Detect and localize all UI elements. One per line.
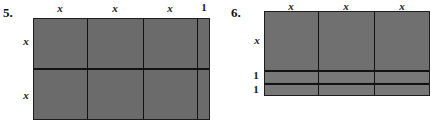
problem-5-horizontal-divider-1 [34, 68, 209, 70]
problem-6-left-label-2: 1 [250, 70, 262, 81]
problem-5-top-label-4: 1 [196, 2, 212, 13]
problem-6-left-label-1: x [250, 35, 264, 46]
problem-5-number: 5. [3, 5, 13, 21]
problem-6-horizontal-divider-1 [265, 70, 429, 72]
problem-5-top-label-3: x [162, 3, 178, 14]
problem-6-horizontal-divider-2 [265, 83, 429, 85]
problem-6-tile-rectangle [264, 11, 430, 96]
problem-5-top-label-1: x [52, 3, 68, 14]
problem-5-tile-rectangle [33, 18, 210, 120]
problem-5-left-label-2: x [19, 90, 33, 101]
problem-6-left-label-3: 1 [250, 84, 262, 95]
problem-6-number: 6. [231, 5, 241, 21]
problem-5-left-label-1: x [19, 36, 33, 47]
problem-5-top-label-2: x [107, 3, 123, 14]
worksheet-canvas: 5. x x x 1 x x 6. x x x x 1 1 [0, 0, 439, 128]
